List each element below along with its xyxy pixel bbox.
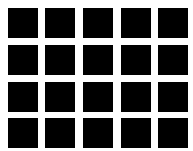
grid-square	[121, 8, 151, 38]
grid-square	[83, 82, 113, 112]
grid-square	[158, 8, 188, 38]
grid-square	[45, 8, 75, 38]
grid-square	[83, 8, 113, 38]
grid-square	[45, 118, 75, 148]
grid-square	[121, 82, 151, 112]
grid-square	[8, 82, 38, 112]
grid-square	[45, 45, 75, 75]
grid-square	[83, 118, 113, 148]
grid-square	[8, 8, 38, 38]
grid-square	[121, 118, 151, 148]
grid-square	[45, 82, 75, 112]
grid-square	[8, 45, 38, 75]
grid-square	[158, 82, 188, 112]
grid-square	[121, 45, 151, 75]
grid-square	[8, 118, 38, 148]
grid-square	[158, 45, 188, 75]
hermann-grid	[0, 0, 193, 151]
grid-square	[158, 118, 188, 148]
grid-square	[83, 45, 113, 75]
